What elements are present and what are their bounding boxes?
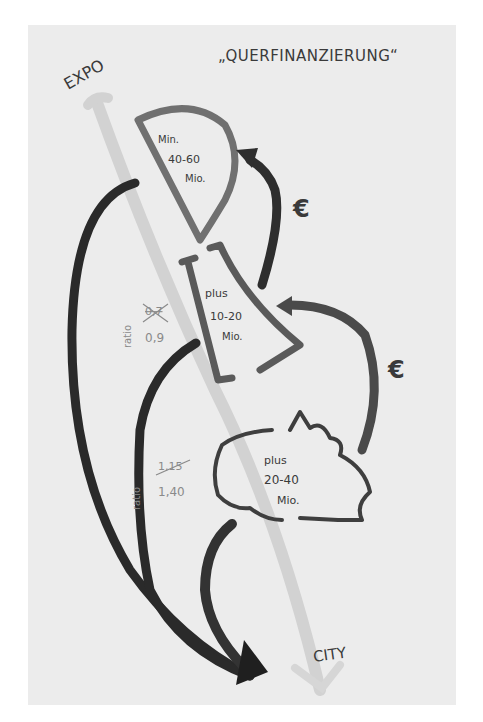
ratio-struck-value-2: 1,15: [158, 460, 183, 473]
diagram-title: „QUERFINANZIERUNG“: [218, 47, 398, 65]
ratio-label-2: ratio: [131, 487, 142, 510]
ratio-value-2: 1,40: [158, 485, 185, 499]
stage-1-line-1: Min.: [158, 134, 179, 145]
stage-3-line-3: Mio.: [277, 494, 300, 507]
stage-3-line-2: 20-40: [264, 473, 299, 487]
stage-2-line-1: plus: [205, 287, 228, 300]
euro-icon-2: €: [387, 356, 405, 384]
euro-icon-1: €: [292, 195, 310, 223]
sketch-canvas: EXPO „QUERFINANZIERUNG“ CITY Min. 40-60 …: [0, 0, 483, 722]
money-flow-arrow-1: [236, 148, 277, 285]
stage-3-line-1: plus: [264, 454, 287, 467]
ratio-value-1: 0,9: [145, 331, 164, 345]
stage-1-line-3: Mio.: [185, 173, 206, 184]
stage-2-line-3: Mio.: [222, 331, 243, 342]
stage-2-line-2: 10-20: [210, 310, 242, 323]
expo-label: EXPO: [61, 55, 108, 93]
stage-1-line-2: 40-60: [168, 153, 200, 166]
ratio-label-1: ratio: [122, 325, 133, 348]
